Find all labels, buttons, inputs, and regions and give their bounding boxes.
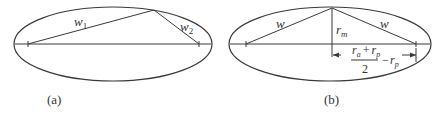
- arrow-right-icon: [410, 53, 416, 58]
- frac-numerator: ra+rp: [352, 43, 380, 59]
- minus-sign: −: [382, 53, 389, 67]
- arrow-left-icon: [333, 53, 339, 58]
- label-rp: rp: [390, 53, 399, 69]
- line-w1: [28, 10, 154, 44]
- label-w-right: w: [380, 16, 389, 31]
- orbit-diagram: w1 w2 (a) w w rm ra+rp 2 − rp (b): [0, 0, 437, 116]
- line-w-left: [246, 8, 332, 44]
- caption-b: (b): [324, 92, 339, 107]
- frac-denominator: 2: [362, 62, 368, 76]
- panel-a: w1 w2 (a): [14, 7, 212, 107]
- panel-b: w w rm ra+rp 2 − rp (b): [229, 7, 431, 107]
- dimension-formula: ra+rp 2 − rp: [351, 43, 399, 76]
- label-w-left: w: [276, 16, 285, 31]
- label-rm: rm: [336, 22, 348, 39]
- caption-a: (a): [47, 92, 61, 107]
- label-w1: w1: [74, 14, 87, 31]
